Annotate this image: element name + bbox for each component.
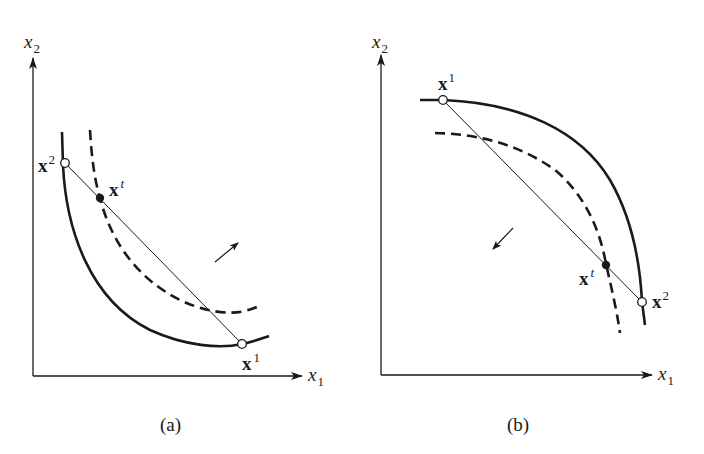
panel-b: x2 x1 x1 xt x2 (b): [371, 31, 674, 436]
chord: [443, 100, 642, 302]
point-x2-label: x2: [38, 152, 55, 176]
point-x1-label: x1: [242, 350, 260, 374]
panel-a-caption: (a): [160, 414, 181, 436]
x-axis-label: x1: [307, 364, 324, 389]
point-xt-marker: [602, 261, 610, 269]
dashed-curve: [90, 130, 261, 313]
arrow-up-right-icon: [215, 243, 238, 262]
point-xt-label: xt: [579, 265, 595, 289]
x-axis-label: x1: [657, 363, 674, 388]
y-axis-label: x2: [371, 31, 388, 56]
point-x2-marker: [61, 159, 70, 168]
panel-a: x2 x1 x2 xt x1 (a): [23, 31, 324, 436]
point-x2-label: x2: [652, 288, 669, 312]
point-x2-marker: [638, 298, 647, 307]
figure-canvas: x2 x1 x2 xt x1 (a) x2 x1: [0, 0, 704, 454]
y-axis-label: x2: [23, 31, 40, 56]
point-x1-marker: [439, 96, 448, 105]
point-xt-marker: [96, 194, 104, 202]
point-x1-label: x1: [438, 70, 455, 94]
panel-b-caption: (b): [507, 414, 529, 436]
arrow-down-left-icon: [493, 228, 513, 249]
point-x1-marker: [238, 340, 247, 349]
dashed-curve: [435, 133, 620, 333]
chord: [65, 163, 242, 344]
point-xt-label: xt: [109, 176, 125, 200]
